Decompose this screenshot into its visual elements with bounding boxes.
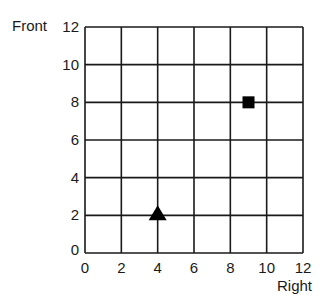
x-tick-label: 12 [295,259,312,276]
y-tick-label: 8 [71,93,79,110]
y-tick-label: 10 [62,56,79,73]
y-tick-labels: 024681012 [62,18,79,258]
y-tick-label: 2 [71,206,79,223]
x-tick-label: 0 [81,259,89,276]
y-tick-label: 0 [71,241,79,258]
x-tick-label: 4 [153,259,161,276]
y-tick-label: 12 [62,18,79,35]
y-axis-label: Front [12,17,48,34]
square-marker-icon [243,96,255,108]
x-tick-label: 8 [226,259,234,276]
triangle-marker-icon [149,205,167,220]
grid-lines [85,27,303,253]
data-markers [149,96,255,220]
x-axis-label: Right [277,277,313,294]
x-tick-label: 6 [190,259,198,276]
x-tick-labels: 024681012 [81,259,312,276]
y-tick-label: 6 [71,131,79,148]
x-tick-label: 10 [258,259,275,276]
coordinate-grid-chart: 024681012 024681012 Front Right [0,0,327,304]
x-tick-label: 2 [117,259,125,276]
y-tick-label: 4 [71,169,79,186]
